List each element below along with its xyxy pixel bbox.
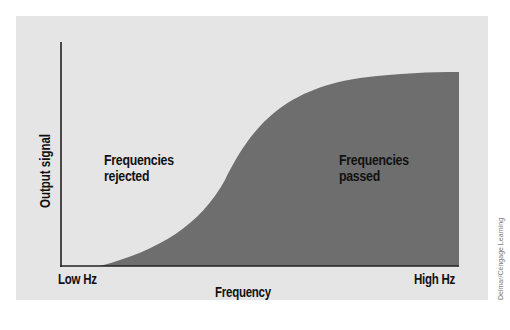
y-axis-label: Output signal <box>37 134 53 208</box>
passed-annotation: Frequencies passed <box>339 152 409 184</box>
rejected-line-1: Frequencies <box>104 152 174 168</box>
x-axis-label: Frequency <box>215 284 271 300</box>
rejected-annotation: Frequencies rejected <box>104 152 174 184</box>
rejected-line-2: rejected <box>104 168 174 184</box>
passed-line-1: Frequencies <box>339 152 409 168</box>
passed-line-2: passed <box>339 168 409 184</box>
image-credit: Delmar/Cengage Learning <box>497 218 504 300</box>
x-tick-low: Low Hz <box>58 271 97 287</box>
x-tick-high: High Hz <box>414 271 455 287</box>
